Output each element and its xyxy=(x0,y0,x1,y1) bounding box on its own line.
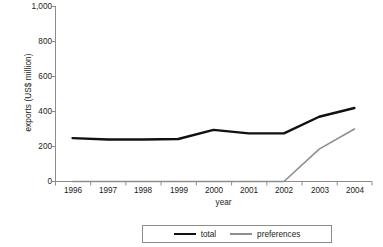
x-tick-label-1997: 1997 xyxy=(90,186,126,195)
x-axis-title-wrapper: year xyxy=(0,198,383,207)
x-tick-label-2003: 2003 xyxy=(302,186,338,195)
x-tick-label-2004: 2004 xyxy=(337,186,373,195)
legend-label-preferences: preferences xyxy=(257,230,300,239)
legend-swatch-preferences-icon xyxy=(230,233,252,235)
x-tick-label-1999: 1999 xyxy=(161,186,197,195)
x-tick-label-2000: 2000 xyxy=(196,186,232,195)
series-line-preferences xyxy=(73,129,355,182)
x-axis-title: year xyxy=(216,198,232,207)
legend-entry-total: total xyxy=(174,230,216,239)
x-tick-label-2002: 2002 xyxy=(266,186,302,195)
x-tick-label-1996: 1996 xyxy=(55,186,91,195)
chart-legend: total preferences xyxy=(142,225,332,243)
series-line-total xyxy=(73,108,355,140)
x-tick-label-1998: 1998 xyxy=(125,186,161,195)
legend-label-total: total xyxy=(201,230,216,239)
y-axis-ticks xyxy=(52,7,56,182)
legend-swatch-total-icon xyxy=(174,233,196,235)
plot-area xyxy=(0,0,383,247)
legend-entry-preferences: preferences xyxy=(230,230,300,239)
exports-line-chart: exports (US$ million) 1,000 800 600 400 … xyxy=(0,0,383,247)
x-tick-label-2001: 2001 xyxy=(231,186,267,195)
